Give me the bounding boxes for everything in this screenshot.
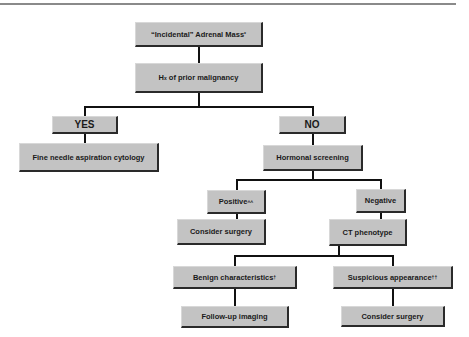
footnote-mark: †† [432, 274, 438, 280]
node-label: Negative [365, 196, 396, 205]
connector-benign-followup [234, 288, 236, 306]
connector-history-down [198, 93, 200, 107]
node-label: Suspicious appearance [348, 273, 432, 282]
node-label: Fine needle aspiration cytology [32, 153, 144, 162]
connector-history-branch [84, 106, 314, 108]
node-no: NO [279, 116, 346, 134]
node-label: YES [74, 119, 94, 130]
node-label: Consider surgery [361, 312, 423, 321]
connector-to-benign [234, 255, 236, 266]
node-negative: Negative [356, 189, 406, 213]
node-yes: YES [52, 116, 118, 134]
node-ct-phenotype: CT phenotype [329, 219, 407, 246]
node-benign-characteristics: Benign characteristics† [173, 266, 297, 289]
node-label-suffix: of prior malignancy [167, 73, 239, 82]
connector-suspicious-surgery [392, 288, 394, 306]
node-label: Consider surgery [190, 227, 252, 236]
connector-no-hormonal [312, 133, 314, 145]
connector-to-yes [84, 106, 86, 116]
connector-root-history [198, 47, 200, 63]
node-positive: Positive^^ [207, 190, 266, 214]
node-fine-needle-aspiration: Fine needle aspiration cytology [19, 143, 159, 172]
node-suspicious-appearance: Suspicious appearance†† [333, 266, 453, 289]
node-history-prior-malignancy: Hx of prior malignancy [135, 63, 263, 93]
footnote-mark: ^^ [247, 199, 253, 205]
footnote-mark: * [244, 31, 246, 37]
node-label: CT phenotype [343, 228, 393, 237]
node-label: Benign characteristics [193, 273, 273, 282]
connector-to-no [312, 106, 314, 116]
node-label: NO [305, 119, 320, 130]
footnote-mark: † [273, 274, 276, 280]
node-label: Hormonal screening [276, 153, 349, 162]
node-consider-surgery-2: Consider surgery [341, 306, 445, 327]
node-label: Positive [219, 197, 248, 206]
connector-ct-branch [234, 255, 394, 257]
node-hormonal-screening: Hormonal screening [263, 145, 363, 171]
node-label: “Incidental” Adrenal Mass [151, 30, 244, 39]
node-consider-surgery-1: Consider surgery [177, 219, 266, 245]
connector-negative-ct [380, 212, 382, 219]
node-label: Follow-up imaging [201, 312, 267, 321]
node-follow-up-imaging: Follow-up imaging [181, 306, 289, 328]
connector-to-suspicious [392, 255, 394, 266]
node-incidental-adrenal-mass: “Incidental” Adrenal Mass* [135, 22, 263, 47]
connector-to-positive [236, 179, 238, 190]
top-rule [0, 3, 456, 5]
connector-hormonal-branch [236, 179, 382, 181]
connector-to-negative [380, 179, 382, 189]
